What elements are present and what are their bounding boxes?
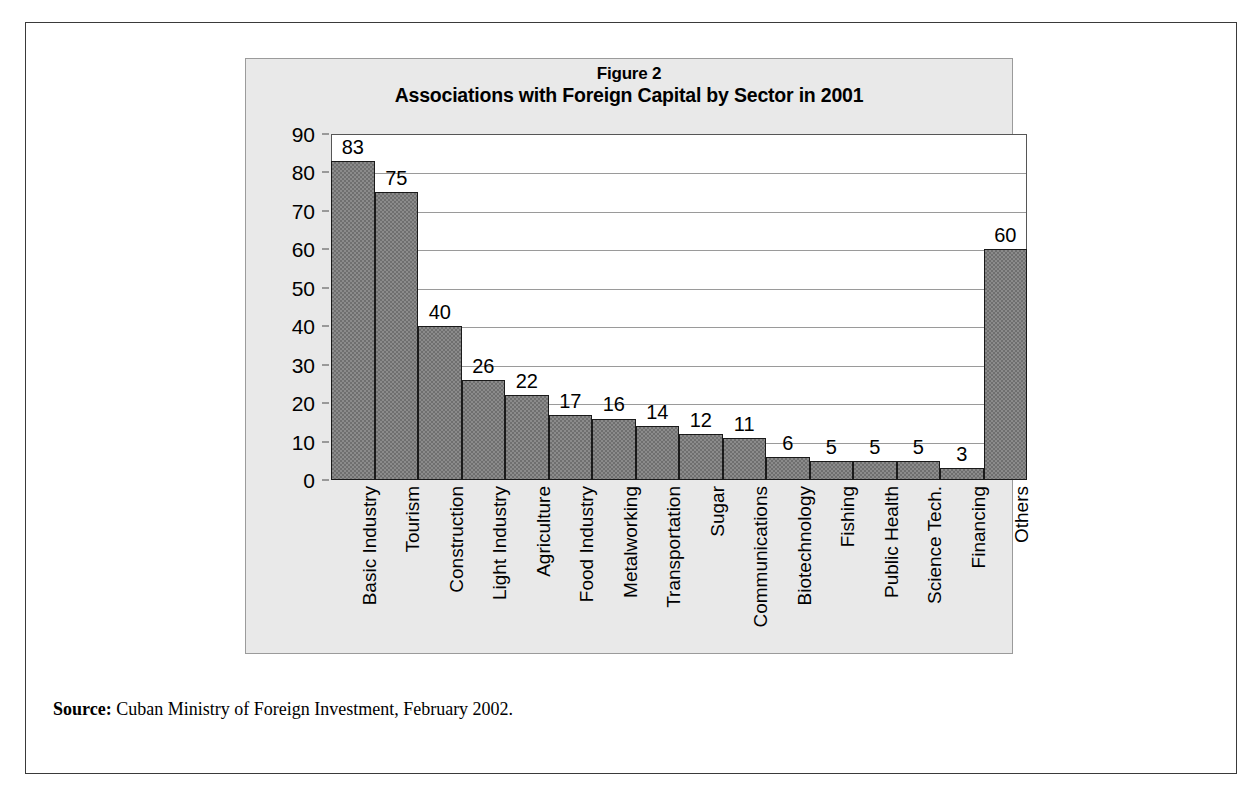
bar-value-label: 5 <box>869 437 880 457</box>
bar-slot: 60 <box>984 134 1028 480</box>
y-axis-tick-label: 80 <box>292 162 315 183</box>
y-axis-tick-label: 40 <box>292 316 315 337</box>
x-axis-label-slot: Agriculture <box>505 482 549 652</box>
bar-slot: 5 <box>853 134 897 480</box>
bar[interactable] <box>853 461 897 480</box>
bar-value-label: 3 <box>956 444 967 464</box>
source-label: Source: <box>53 699 112 719</box>
bar-slot: 14 <box>636 134 680 480</box>
x-axis-label-slot: Construction <box>418 482 462 652</box>
y-axis-tick-label: 0 <box>303 470 315 491</box>
bar-value-label: 6 <box>782 433 793 453</box>
bar-value-label: 75 <box>385 168 407 188</box>
bar[interactable] <box>462 380 506 480</box>
bar-slot: 12 <box>679 134 723 480</box>
x-axis: Basic IndustryTourismConstructionLight I… <box>331 482 1027 652</box>
x-axis-label-slot: Basic Industry <box>331 482 375 652</box>
x-axis-tick-label: Others <box>1012 486 1031 543</box>
bar-value-label: 11 <box>734 414 755 434</box>
y-axis: 0102030405060708090 <box>246 134 331 480</box>
y-axis-tick-label: 10 <box>292 431 315 452</box>
y-axis-tick-mark <box>322 441 329 442</box>
bar-value-label: 14 <box>646 402 668 422</box>
y-axis-tick-mark <box>322 134 329 135</box>
bar[interactable] <box>375 192 419 480</box>
y-axis-tick-label: 20 <box>292 393 315 414</box>
bar[interactable] <box>636 426 680 480</box>
x-axis-label-slot: Food Industry <box>549 482 593 652</box>
bar-value-label: 16 <box>603 394 625 414</box>
x-axis-label-slot: Science Tech. <box>897 482 941 652</box>
y-axis-tick-mark <box>322 172 329 173</box>
x-axis-label-slot: Biotechnology <box>766 482 810 652</box>
y-axis-tick-label: 90 <box>292 124 315 145</box>
bar-slot: 17 <box>549 134 593 480</box>
bars-layer: 837540262217161412116555360 <box>331 134 1027 480</box>
y-axis-tick-mark <box>322 480 329 481</box>
figure-frame: Figure 2 Associations with Foreign Capit… <box>25 22 1237 774</box>
bar-value-label: 40 <box>429 302 451 322</box>
bar[interactable] <box>549 415 593 480</box>
bar[interactable] <box>679 434 723 480</box>
bar[interactable] <box>331 161 375 480</box>
bar[interactable] <box>810 461 854 480</box>
y-axis-tick-label: 60 <box>292 239 315 260</box>
bar-value-label: 5 <box>826 437 837 457</box>
y-axis-tick-label: 30 <box>292 354 315 375</box>
bar-value-label: 12 <box>690 410 712 430</box>
y-axis-tick-label: 50 <box>292 277 315 298</box>
bar-slot: 3 <box>940 134 984 480</box>
bar-slot: 5 <box>810 134 854 480</box>
y-axis-tick-label: 70 <box>292 200 315 221</box>
x-axis-label-slot: Light Industry <box>462 482 506 652</box>
y-axis-tick-mark <box>322 364 329 365</box>
bar-slot: 11 <box>723 134 767 480</box>
bar[interactable] <box>766 457 810 480</box>
bar-value-label: 5 <box>913 437 924 457</box>
bar-slot: 16 <box>592 134 636 480</box>
bar-value-label: 26 <box>472 356 494 376</box>
bar[interactable] <box>418 326 462 480</box>
bar-slot: 6 <box>766 134 810 480</box>
bar[interactable] <box>592 419 636 481</box>
bar-slot: 83 <box>331 134 375 480</box>
x-axis-label-slot: Others <box>984 482 1028 652</box>
chart-panel: Figure 2 Associations with Foreign Capit… <box>245 58 1013 654</box>
bar-value-label: 60 <box>994 225 1016 245</box>
bar-value-label: 17 <box>559 391 581 411</box>
x-axis-label-slot: Tourism <box>375 482 419 652</box>
bar[interactable] <box>505 395 549 480</box>
bar-slot: 22 <box>505 134 549 480</box>
bar-value-label: 83 <box>342 137 364 157</box>
figure-number-label: Figure 2 <box>246 65 1012 83</box>
y-axis-tick-mark <box>322 403 329 404</box>
bar[interactable] <box>723 438 767 480</box>
x-axis-label-slot: Sugar <box>679 482 723 652</box>
chart-title-block: Figure 2 Associations with Foreign Capit… <box>246 65 1012 106</box>
bar[interactable] <box>940 468 984 480</box>
bar[interactable] <box>984 249 1028 480</box>
source-text: Cuban Ministry of Foreign Investment, Fe… <box>112 699 513 719</box>
bar-slot: 75 <box>375 134 419 480</box>
bar-value-label: 22 <box>516 371 538 391</box>
y-axis-tick-mark <box>322 287 329 288</box>
y-axis-tick-mark <box>322 326 329 327</box>
chart-title: Associations with Foreign Capital by Sec… <box>246 85 1012 106</box>
bar-slot: 26 <box>462 134 506 480</box>
x-axis-label-slot: Fishing <box>810 482 854 652</box>
x-axis-label-slot: Transportation <box>636 482 680 652</box>
y-axis-tick-mark <box>322 249 329 250</box>
x-axis-label-slot: Public Health <box>853 482 897 652</box>
bar-slot: 5 <box>897 134 941 480</box>
source-note: Source: Cuban Ministry of Foreign Invest… <box>53 699 513 720</box>
x-axis-label-slot: Communications <box>723 482 767 652</box>
x-axis-label-slot: Metalworking <box>592 482 636 652</box>
y-axis-tick-mark <box>322 210 329 211</box>
bar-slot: 40 <box>418 134 462 480</box>
bar[interactable] <box>897 461 941 480</box>
x-axis-label-slot: Financing <box>940 482 984 652</box>
